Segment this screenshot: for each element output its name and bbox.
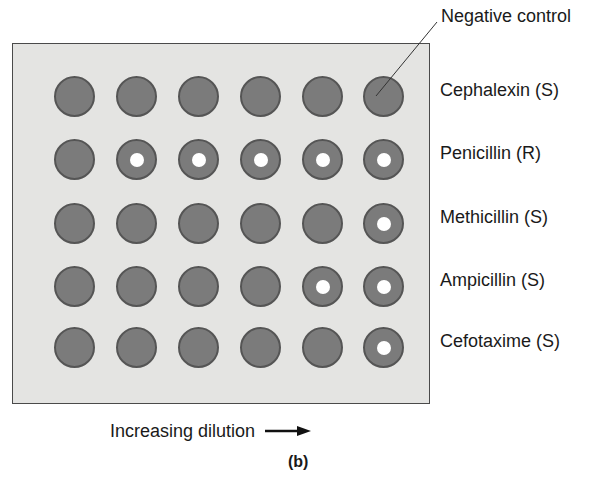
antibiotic-label: Ampicillin (S) <box>440 270 545 291</box>
panel-label: (b) <box>288 453 308 471</box>
antibiotic-label: Penicillin (R) <box>440 143 541 164</box>
antibiotic-label: Methicillin (S) <box>440 207 548 228</box>
negative-control-leader-line <box>0 0 609 477</box>
dilution-caption: Increasing dilution <box>110 421 311 442</box>
antibiotic-label: Cefotaxime (S) <box>440 331 560 352</box>
antibiotic-label: Cephalexin (S) <box>440 80 559 101</box>
negative-control-label: Negative control <box>441 6 571 27</box>
arrow-right-icon <box>265 421 311 442</box>
dilution-label: Increasing dilution <box>110 421 255 442</box>
